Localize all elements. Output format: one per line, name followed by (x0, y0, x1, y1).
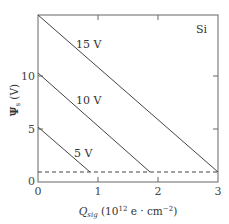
x-tick-label-0: 0 (35, 185, 42, 198)
x-label-unit-mid: e · cm (127, 205, 162, 217)
x-label-exp2: −2 (163, 205, 173, 213)
plot-frame (38, 15, 218, 182)
x-label-exp: 12 (118, 205, 127, 213)
label-10V: 10 V (76, 94, 102, 107)
material-annotation: Si (196, 23, 208, 36)
x-label-sub: sig (87, 211, 98, 219)
x-tick-label-3: 3 (215, 185, 222, 198)
x-tick-label-2: 2 (155, 185, 162, 198)
label-15V: 15 V (76, 38, 102, 51)
line-10V (38, 73, 150, 172)
label-5V: 5 V (74, 147, 93, 160)
x-label-unit-close: ) (173, 205, 177, 217)
x-ticks (98, 15, 158, 182)
y-label-unit: (V) (8, 84, 20, 103)
y-axis-label: Ψs (V) (8, 84, 22, 116)
y-tick-label-0: 0 (28, 175, 35, 188)
x-axis-label: Qsig (1012 e · cm−2) (79, 205, 177, 219)
line-15V (38, 15, 218, 172)
x-tick-label-1: 1 (95, 185, 102, 198)
y-label-symbol: Ψ (8, 106, 20, 116)
series-lines (38, 15, 218, 172)
y-tick-label-5: 5 (28, 123, 35, 136)
x-label-unit-open: (10 (98, 205, 119, 217)
y-tick-label-10: 10 (21, 70, 35, 83)
y-ticks (38, 76, 218, 129)
chart: 0 1 2 3 0 5 10 15 V 10 V 5 V Si Qsig (10… (0, 0, 229, 224)
